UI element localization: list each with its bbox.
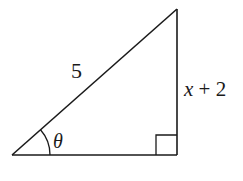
plus-two: + 2 (193, 77, 226, 101)
variable-x: x (184, 77, 193, 101)
hypotenuse-side (12, 9, 177, 155)
angle-theta-label: θ (53, 131, 63, 151)
angle-arc (41, 130, 51, 155)
vertical-side-label: x + 2 (184, 79, 226, 100)
right-angle-marker (156, 135, 177, 155)
hypotenuse-label: 5 (71, 60, 82, 82)
triangle-diagram: 5 x + 2 θ (0, 0, 243, 181)
